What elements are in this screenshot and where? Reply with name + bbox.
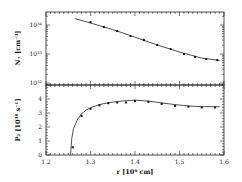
xlabel: r [10⁶ cm] (117, 168, 154, 176)
bottom-data-point (98, 104, 100, 106)
top-plot-frame (46, 12, 224, 85)
bottom-ytick-label: 0 (38, 151, 42, 158)
top-data-point (156, 44, 158, 46)
bottom-data-point (125, 102, 127, 104)
bottom-data-point (72, 146, 74, 148)
bottom-ytick-label: 4 (38, 95, 42, 102)
bottom-data-point (214, 106, 216, 108)
top-ytick-labels: 10³⁴ 10³³ 10³² (30, 21, 43, 86)
xtick-labels: 1.2 1.3 1.4 1.5 1.6 (41, 158, 229, 165)
bottom-panel: 0 1 2 3 4 1.2 1.3 1.4 1.5 1.6 r [10⁶ cm]… (14, 85, 229, 176)
top-panel: 10³⁴ 10³³ 10³² N₊ [cm⁻³] (14, 12, 224, 86)
figure: 10³⁴ 10³³ 10³² N₊ [cm⁻³] 0 1 2 3 4 1.2 1… (0, 0, 242, 182)
bottom-data-point (201, 106, 203, 108)
bottom-data-point (116, 102, 118, 104)
top-data-point (194, 56, 196, 58)
top-ytick-label: 10³⁴ (30, 21, 43, 28)
top-data-point (90, 21, 92, 23)
top-data-point (216, 59, 218, 61)
bottom-data-point (161, 103, 163, 105)
bottom-ytick-label: 1 (38, 137, 42, 144)
top-model-curve (75, 19, 220, 61)
bottom-plot-frame (46, 85, 224, 155)
bottom-data-point (134, 100, 136, 102)
xtick-label: 1.4 (130, 158, 140, 165)
bottom-data-point (147, 101, 149, 103)
top-data-point (183, 53, 185, 55)
top-data-point (116, 30, 118, 32)
xtick-label: 1.2 (41, 158, 51, 165)
bottom-ytick-label: 3 (38, 109, 42, 116)
bottom-ytick-label: 2 (38, 123, 42, 130)
top-ytick-label: 10³³ (30, 50, 43, 57)
bottom-data-point (81, 115, 83, 117)
top-data-point (130, 35, 132, 37)
top-ticks (46, 12, 224, 85)
xtick-label: 1.5 (175, 158, 185, 165)
bottom-ytick-labels: 0 1 2 3 4 (38, 95, 42, 158)
bottom-data-point (107, 102, 109, 104)
xtick-label: 1.6 (219, 158, 229, 165)
bottom-ylabel: P₂ [10³⁸ s⁻¹] (14, 98, 22, 141)
top-data-point (205, 58, 207, 60)
top-ylabel: N₊ [cm⁻³] (14, 31, 22, 66)
bottom-data-point (174, 105, 176, 107)
top-data-point (103, 26, 105, 28)
bottom-data-point (187, 106, 189, 108)
top-ytick-label: 10³² (30, 79, 43, 86)
bottom-data-point (90, 108, 92, 110)
top-data-point (143, 39, 145, 41)
top-data-points (90, 21, 219, 61)
bottom-model-curve (71, 100, 220, 155)
xtick-label: 1.3 (86, 158, 96, 165)
bottom-ticks (46, 85, 224, 155)
top-data-point (170, 48, 172, 50)
bottom-data-points (72, 100, 216, 148)
